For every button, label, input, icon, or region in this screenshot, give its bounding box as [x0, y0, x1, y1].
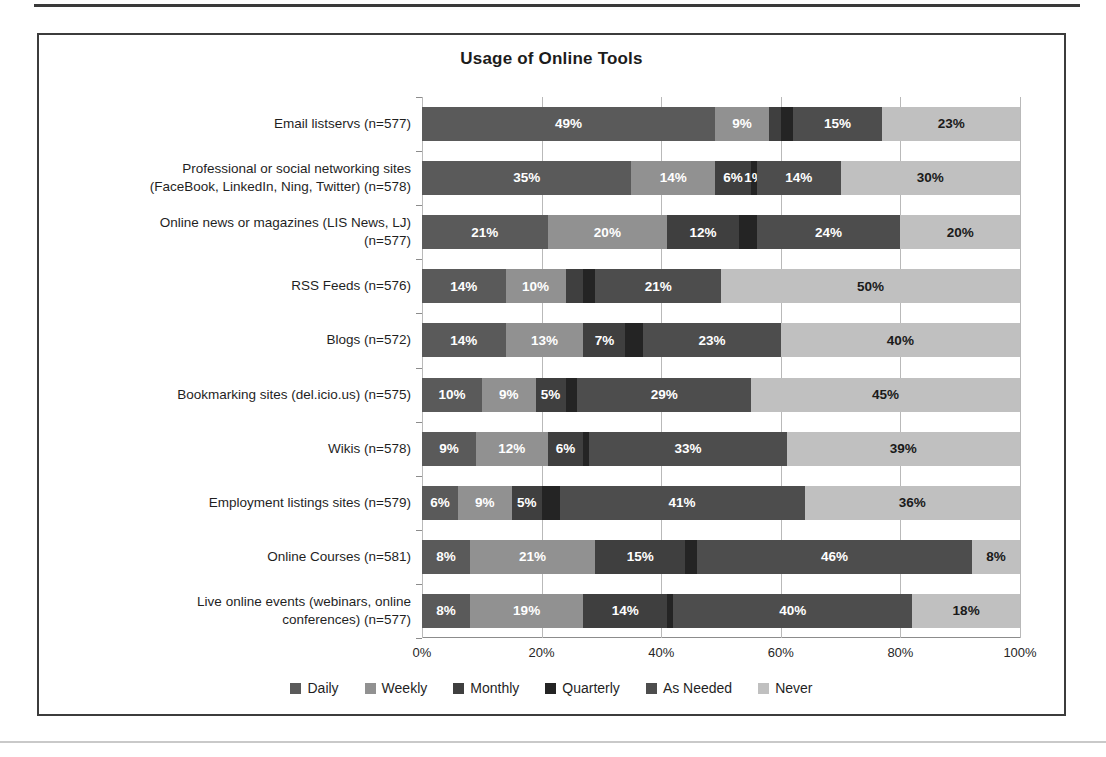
bar-segment-weekly[interactable]: 12%	[476, 432, 548, 466]
bar-segment-weekly[interactable]: 19%	[470, 594, 584, 628]
category-label-line: Live online events (webinars, online	[81, 593, 411, 611]
category-label: Bookmarking sites (del.icio.us) (n=575)	[81, 386, 417, 404]
category-label-line: Employment listings sites (n=579)	[81, 494, 411, 512]
bar-segment-as-needed[interactable]: 33%	[589, 432, 786, 466]
bar-segment-daily[interactable]: 9%	[422, 432, 476, 466]
bar-segment-daily[interactable]: 10%	[422, 378, 482, 412]
bar-segment-as-needed[interactable]: 15%	[793, 107, 883, 141]
bar-segment-as-needed[interactable]: 24%	[757, 215, 901, 249]
x-tick-label: 80%	[887, 645, 913, 660]
legend-swatch-icon	[290, 683, 301, 694]
bar-segment-quarterly[interactable]	[781, 107, 793, 141]
category-label: Live online events (webinars, onlineconf…	[81, 593, 417, 629]
legend-swatch-icon	[758, 683, 769, 694]
bar-segment-quarterly[interactable]	[583, 269, 595, 303]
gridline-100	[1020, 97, 1021, 638]
bar-segment-weekly[interactable]: 14%	[631, 161, 715, 195]
bar-segment-value: 14%	[660, 171, 687, 185]
bar-segment-value: 23%	[699, 334, 726, 348]
bar-row[interactable]: 21%20%12%24%20%	[422, 215, 1020, 249]
bar-segment-never[interactable]: 45%	[751, 378, 1020, 412]
bar-segment-value: 15%	[627, 550, 654, 564]
bar-segment-as-needed[interactable]: 29%	[577, 378, 750, 412]
bar-row[interactable]: 49%9%15%23%	[422, 107, 1020, 141]
bar-row[interactable]: 9%12%6%33%39%	[422, 432, 1020, 466]
legend-item-daily[interactable]: Daily	[290, 680, 338, 696]
x-axis-tick-labels: 0%20%40%60%80%100%	[422, 645, 1020, 667]
bar-segment-never[interactable]: 20%	[900, 215, 1020, 249]
bar-segment-daily[interactable]: 14%	[422, 323, 506, 357]
bar-segment-as-needed[interactable]: 41%	[560, 486, 805, 520]
bar-segment-quarterly[interactable]	[739, 215, 757, 249]
bar-segment-never[interactable]: 36%	[805, 486, 1020, 520]
bar-row[interactable]: 8%21%15%46%8%	[422, 540, 1020, 574]
bar-segment-never[interactable]: 50%	[721, 269, 1020, 303]
bar-segment-daily[interactable]: 14%	[422, 269, 506, 303]
bar-segment-monthly[interactable]: 5%	[512, 486, 542, 520]
bar-segment-weekly[interactable]: 9%	[715, 107, 769, 141]
bar-segment-weekly[interactable]: 20%	[548, 215, 668, 249]
bar-segment-as-needed[interactable]: 21%	[595, 269, 721, 303]
bar-segment-quarterly[interactable]	[685, 540, 697, 574]
bar-segment-weekly[interactable]: 13%	[506, 323, 584, 357]
bar-segment-monthly[interactable]: 5%	[536, 378, 566, 412]
bar-segment-never[interactable]: 39%	[787, 432, 1020, 466]
bar-row[interactable]: 14%10%21%50%	[422, 269, 1020, 303]
y-axis-tick	[416, 584, 422, 585]
bar-segment-value: 18%	[953, 604, 980, 618]
bar-segment-as-needed[interactable]: 46%	[697, 540, 972, 574]
bar-segment-monthly[interactable]: 6%	[548, 432, 584, 466]
bar-segment-quarterly[interactable]	[566, 378, 578, 412]
bar-segment-weekly[interactable]: 9%	[458, 486, 512, 520]
bar-segment-value: 6%	[723, 171, 743, 185]
bar-row[interactable]: 6%9%5%41%36%	[422, 486, 1020, 520]
bar-segment-weekly[interactable]: 21%	[470, 540, 596, 574]
bar-segment-monthly[interactable]: 12%	[667, 215, 739, 249]
y-axis-tick	[416, 151, 422, 152]
bar-segment-as-needed[interactable]: 40%	[673, 594, 912, 628]
bar-segment-monthly[interactable]: 15%	[595, 540, 685, 574]
bar-segment-daily[interactable]: 35%	[422, 161, 631, 195]
bar-row[interactable]: 8%19%14%40%18%	[422, 594, 1020, 628]
category-label: Professional or social networking sites(…	[81, 160, 417, 196]
y-axis-tick	[416, 259, 422, 260]
legend-item-weekly[interactable]: Weekly	[365, 680, 428, 696]
bar-segment-value: 9%	[475, 496, 495, 510]
bar-segment-value: 39%	[890, 442, 917, 456]
bar-segment-value: 21%	[645, 280, 672, 294]
bar-segment-never[interactable]: 40%	[781, 323, 1020, 357]
bar-segment-daily[interactable]: 8%	[422, 540, 470, 574]
bar-segment-never[interactable]: 18%	[912, 594, 1020, 628]
bar-segment-monthly[interactable]	[566, 269, 584, 303]
bar-segment-never[interactable]: 8%	[972, 540, 1020, 574]
bar-segment-monthly[interactable]: 7%	[583, 323, 625, 357]
bar-segment-daily[interactable]: 6%	[422, 486, 458, 520]
legend-item-never[interactable]: Never	[758, 680, 812, 696]
bar-segment-monthly[interactable]: 14%	[583, 594, 667, 628]
bar-segment-quarterly[interactable]	[542, 486, 560, 520]
legend-item-as-needed[interactable]: As Needed	[646, 680, 732, 696]
legend-item-quarterly[interactable]: Quarterly	[545, 680, 620, 696]
bar-segment-as-needed[interactable]: 14%	[757, 161, 841, 195]
bar-segment-daily[interactable]: 21%	[422, 215, 548, 249]
bar-segment-never[interactable]: 30%	[841, 161, 1020, 195]
category-label-line: RSS Feeds (n=576)	[81, 277, 411, 295]
bar-segment-value: 10%	[438, 388, 465, 402]
legend-label: As Needed	[663, 680, 732, 696]
bar-segment-weekly[interactable]: 10%	[506, 269, 566, 303]
bar-segment-quarterly[interactable]	[625, 323, 643, 357]
bar-row[interactable]: 35%14%6%1%14%30%	[422, 161, 1020, 195]
bar-segment-daily[interactable]: 49%	[422, 107, 715, 141]
bar-row[interactable]: 10%9%5%29%45%	[422, 378, 1020, 412]
bar-row[interactable]: 14%13%7%23%40%	[422, 323, 1020, 357]
bar-segment-daily[interactable]: 8%	[422, 594, 470, 628]
category-label-line: Wikis (n=578)	[81, 440, 411, 458]
y-axis-category-labels: Email listservs (n=577)Professional or s…	[81, 97, 417, 638]
legend-item-monthly[interactable]: Monthly	[453, 680, 519, 696]
bar-segment-weekly[interactable]: 9%	[482, 378, 536, 412]
bar-segment-as-needed[interactable]: 23%	[643, 323, 781, 357]
bar-segment-value: 40%	[779, 604, 806, 618]
bar-segment-never[interactable]: 23%	[882, 107, 1020, 141]
bar-segment-monthly[interactable]	[769, 107, 781, 141]
category-label: Online Courses (n=581)	[81, 548, 417, 566]
